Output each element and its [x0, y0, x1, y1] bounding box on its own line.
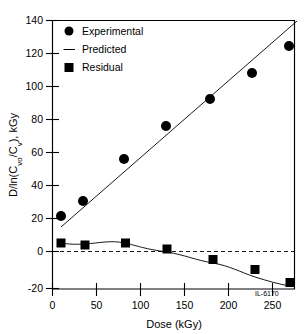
y-axis-title: D/ln(Cvo/Cv), kGy: [7, 113, 24, 197]
y-tick-label: 40: [31, 179, 43, 191]
x-tick-label: 150: [176, 299, 194, 311]
data-point: [161, 121, 171, 131]
data-point: [251, 265, 260, 274]
data-point: [81, 241, 90, 250]
y-axis-title-pre: D/ln(C: [7, 166, 19, 197]
y-tick-label: 60: [31, 146, 43, 158]
y-tick-label: 20: [31, 212, 43, 224]
x-tick-label: 100: [132, 299, 150, 311]
y-tick-label: 140: [25, 14, 43, 26]
data-point: [119, 154, 129, 164]
legend-label-residual: Residual: [82, 61, 123, 73]
legend-label-experimental: Experimental: [82, 25, 143, 37]
data-point: [205, 94, 215, 104]
data-point: [78, 196, 88, 206]
legend-label-predicted: Predicted: [82, 43, 127, 55]
y-axis-title-mid: /C: [7, 146, 19, 157]
y-axis-title-post: ), kGy: [7, 113, 19, 143]
data-point: [284, 41, 294, 51]
x-tick-label: 50: [91, 299, 103, 311]
figure-container: 140 120 100 80 60 40 20 0 -20 0 50 100 1…: [0, 0, 304, 334]
y-tick-label: 80: [31, 113, 43, 125]
x-axis-title: Dose (kGy): [146, 318, 202, 330]
x-axis-tick-labels: 0 50 100 150 200 250: [50, 299, 282, 311]
data-point: [57, 239, 66, 248]
x-tick-label: 200: [220, 299, 238, 311]
x-tick-label: 250: [264, 299, 282, 311]
data-point: [163, 245, 172, 254]
data-point: [121, 239, 130, 248]
residual-curve: [61, 242, 290, 286]
y-axis-tick-labels: 140 120 100 80 60 40 20 0 -20: [25, 14, 43, 294]
residual-data-points: [57, 239, 295, 288]
data-point: [56, 211, 66, 221]
y-tick-label: 100: [25, 80, 43, 92]
y-tick-label: -20: [28, 282, 43, 294]
legend-marker-residual-icon: [65, 63, 74, 72]
chart-legend: Experimental Predicted Residual: [64, 25, 144, 73]
y-tick-label: 0: [37, 245, 43, 257]
data-point: [247, 68, 257, 78]
svg-text:D/ln(Cvo/Cv), kGy: D/ln(Cvo/Cv), kGy: [7, 113, 24, 197]
chart-svg: 140 120 100 80 60 40 20 0 -20 0 50 100 1…: [0, 0, 304, 334]
data-point: [209, 255, 218, 264]
legend-marker-experimental-icon: [65, 27, 74, 36]
y-tick-label: 120: [25, 47, 43, 59]
figure-stamp: IL-6170: [255, 290, 279, 297]
x-tick-label: 0: [50, 299, 56, 311]
data-point: [286, 278, 295, 287]
